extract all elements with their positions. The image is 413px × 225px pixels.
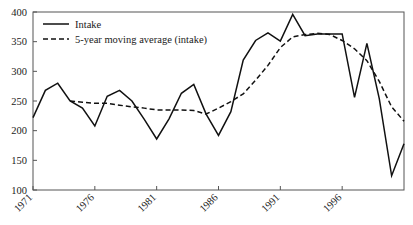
y-tick-label: 400 xyxy=(11,7,27,18)
y-tick-label: 350 xyxy=(11,36,27,47)
legend-label-intake: Intake xyxy=(75,19,102,30)
y-tick-label: 300 xyxy=(11,66,27,77)
x-tick-label: 1991 xyxy=(259,192,282,215)
y-tick-label: 150 xyxy=(11,155,27,166)
line-chart: 1001502002503003504001971197619811986199… xyxy=(0,0,413,225)
chart-container: 1001502002503003504001971197619811986199… xyxy=(0,0,413,225)
legend-label-moving-average: 5-year moving average (intake) xyxy=(75,34,208,46)
series-line-moving-average xyxy=(70,33,404,121)
y-tick-label: 250 xyxy=(11,96,27,107)
x-tick-label: 1986 xyxy=(197,192,220,215)
x-tick-label: 1981 xyxy=(135,192,158,215)
x-tick-label: 1996 xyxy=(321,192,344,215)
y-tick-label: 200 xyxy=(11,125,27,136)
x-tick-label: 1976 xyxy=(74,192,97,215)
